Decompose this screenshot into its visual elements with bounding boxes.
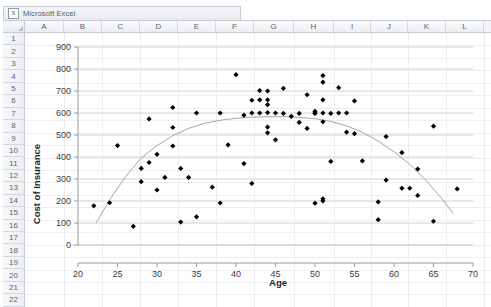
data-point xyxy=(265,88,270,93)
row-header-21[interactable]: 21 xyxy=(3,282,24,294)
data-point xyxy=(328,111,333,116)
data-point xyxy=(257,110,262,115)
y-axis-tick-labels: 0100200300400500600700800900 xyxy=(56,42,78,250)
data-point xyxy=(320,97,325,102)
data-point xyxy=(139,166,144,171)
row-header-6[interactable]: 6 xyxy=(3,95,24,107)
row-header-2[interactable]: 2 xyxy=(3,45,24,57)
data-point xyxy=(249,98,254,103)
data-point xyxy=(344,130,349,135)
y-tick-label-500: 500 xyxy=(56,130,71,140)
data-point xyxy=(376,199,381,204)
scatter-data-points xyxy=(91,72,460,229)
column-header-e[interactable]: E xyxy=(178,21,216,32)
x-tick-label-25: 25 xyxy=(112,269,122,279)
data-point xyxy=(273,110,278,115)
data-point xyxy=(360,158,365,163)
column-header-l[interactable]: L xyxy=(446,21,484,32)
x-tick-label-50: 50 xyxy=(310,269,320,279)
y-tick-label-600: 600 xyxy=(56,108,71,118)
data-point xyxy=(305,92,310,97)
row-header-16[interactable]: 16 xyxy=(3,220,24,232)
data-point xyxy=(139,179,144,184)
data-point xyxy=(170,105,175,110)
row-header-9[interactable]: 9 xyxy=(3,133,24,145)
row-header-18[interactable]: 18 xyxy=(3,244,24,256)
row-header-11[interactable]: 11 xyxy=(3,157,24,169)
data-point xyxy=(265,97,270,102)
row-header-14[interactable]: 14 xyxy=(3,195,24,207)
column-header-b[interactable]: B xyxy=(64,21,102,32)
row-header-17[interactable]: 17 xyxy=(3,232,24,244)
data-point xyxy=(320,73,325,78)
row-header-4[interactable]: 4 xyxy=(3,70,24,82)
column-header-row: ABCDEFGHIJKL xyxy=(3,20,491,33)
row-header-7[interactable]: 7 xyxy=(3,108,24,120)
data-point xyxy=(297,120,302,125)
column-header-c[interactable]: C xyxy=(102,21,140,32)
select-all-corner[interactable] xyxy=(3,21,25,32)
data-point xyxy=(218,110,223,115)
column-header-d[interactable]: D xyxy=(140,21,178,32)
row-header-20[interactable]: 20 xyxy=(3,269,24,281)
column-header-j[interactable]: J xyxy=(371,21,408,32)
column-header-g[interactable]: G xyxy=(254,21,294,32)
data-point xyxy=(170,125,175,130)
y-tick-label-200: 200 xyxy=(56,196,71,206)
scatter-chart[interactable]: 0100200300400500600700800900 20253035404… xyxy=(28,34,488,297)
column-header-f[interactable]: F xyxy=(216,21,254,32)
x-tick-label-65: 65 xyxy=(428,269,438,279)
row-header-8[interactable]: 8 xyxy=(3,120,24,132)
y-tick-label-100: 100 xyxy=(56,218,71,228)
data-point xyxy=(131,224,136,229)
data-point xyxy=(281,86,286,91)
data-point xyxy=(305,126,310,131)
row-header-12[interactable]: 12 xyxy=(3,170,24,182)
x-tick-label-30: 30 xyxy=(152,269,162,279)
data-point xyxy=(178,220,183,225)
data-point xyxy=(289,114,294,119)
data-point xyxy=(399,186,404,191)
data-point xyxy=(241,161,246,166)
data-point xyxy=(257,97,262,102)
data-point xyxy=(344,110,349,115)
trendline xyxy=(96,117,453,223)
x-tick-label-60: 60 xyxy=(389,269,399,279)
data-point xyxy=(233,72,238,77)
column-header-k[interactable]: K xyxy=(408,21,446,32)
row-header-10[interactable]: 10 xyxy=(3,145,24,157)
data-point xyxy=(336,85,341,90)
chart-canvas: 0100200300400500600700800900 20253035404… xyxy=(28,34,488,297)
data-point xyxy=(297,111,302,116)
column-header-h[interactable]: H xyxy=(294,21,334,32)
data-point xyxy=(194,214,199,219)
row-header-22[interactable]: 22 xyxy=(3,294,24,306)
row-header-5[interactable]: 5 xyxy=(3,83,24,95)
data-point xyxy=(384,178,389,183)
data-point xyxy=(226,142,231,147)
row-header-13[interactable]: 13 xyxy=(3,182,24,194)
data-point xyxy=(194,110,199,115)
y-tick-label-400: 400 xyxy=(56,152,71,162)
data-point xyxy=(407,186,412,191)
column-header-a[interactable]: A xyxy=(25,21,64,32)
data-point xyxy=(352,98,357,103)
row-header-19[interactable]: 19 xyxy=(3,257,24,269)
data-point xyxy=(273,137,278,142)
column-header-i[interactable]: I xyxy=(334,21,371,32)
data-point xyxy=(265,110,270,115)
data-point xyxy=(336,110,341,115)
row-header-15[interactable]: 15 xyxy=(3,207,24,219)
window-title-bar: X Microsoft Excel xyxy=(3,6,241,20)
data-point xyxy=(431,124,436,129)
data-point xyxy=(147,160,152,165)
data-point xyxy=(320,80,325,85)
data-point xyxy=(376,217,381,222)
row-header-3[interactable]: 3 xyxy=(3,58,24,70)
x-tick-label-55: 55 xyxy=(349,269,359,279)
data-point xyxy=(91,203,96,208)
data-point xyxy=(210,185,215,190)
row-header-1[interactable]: 1 xyxy=(3,33,24,45)
y-tick-label-900: 900 xyxy=(56,42,71,52)
chart-axes xyxy=(78,47,473,263)
